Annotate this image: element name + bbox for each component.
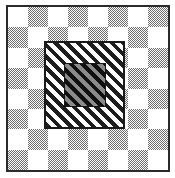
checker-cell (8, 109, 28, 129)
mid-hatched-square (44, 41, 125, 129)
checker-cell (48, 129, 68, 149)
checker-cell (8, 7, 28, 27)
checker-cell (8, 129, 28, 149)
checker-cell (88, 129, 108, 149)
figure-canvas: Nested textured squares figure A bordere… (0, 0, 175, 178)
checker-cell (8, 68, 28, 88)
checker-cell (148, 68, 168, 88)
checker-cell (28, 150, 48, 170)
checker-cell (68, 150, 88, 170)
checker-cell (108, 7, 128, 27)
checker-cell (128, 89, 148, 109)
checker-cell (8, 48, 28, 68)
checker-cell (88, 7, 108, 27)
checker-cell (8, 89, 28, 109)
checker-cell (128, 150, 148, 170)
checker-cell (148, 89, 168, 109)
checker-cell (128, 48, 148, 68)
checker-cell (68, 129, 88, 149)
checker-cell (148, 27, 168, 47)
checker-cell (8, 27, 28, 47)
checker-cell (48, 7, 68, 27)
checker-cell (148, 150, 168, 170)
checker-cell (8, 150, 28, 170)
checker-cell (68, 7, 88, 27)
checker-cell (48, 150, 68, 170)
checker-cell (108, 129, 128, 149)
checker-cell (88, 150, 108, 170)
checker-cell (128, 68, 148, 88)
checker-cell (28, 129, 48, 149)
checker-cell (128, 7, 148, 27)
checker-cell (148, 129, 168, 149)
checker-cell (128, 129, 148, 149)
checker-cell (28, 7, 48, 27)
checker-cell (128, 27, 148, 47)
checker-cell (128, 109, 148, 129)
checker-cell (108, 150, 128, 170)
outer-border (6, 5, 170, 172)
checker-cell (148, 109, 168, 129)
checker-cell (148, 48, 168, 68)
inner-dark-square (64, 63, 106, 107)
checker-cell (148, 7, 168, 27)
